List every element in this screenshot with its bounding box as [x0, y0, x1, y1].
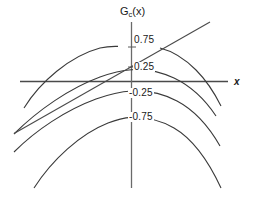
y-axis-label-main: G	[120, 5, 129, 17]
data-straight-line	[14, 22, 210, 134]
y-tick-label-0: 0.75	[133, 35, 155, 45]
data-curve-3	[14, 91, 220, 152]
data-curve-2	[14, 70, 216, 134]
y-tick-label-2: -0.25	[128, 88, 154, 98]
x-axis-label: x	[234, 77, 240, 87]
plot-canvas	[0, 0, 259, 198]
y-axis-label: Gc(x)	[120, 6, 145, 17]
y-axis-label-subscript: c	[129, 10, 133, 19]
y-axis-label-tail: (x)	[132, 5, 145, 17]
y-tick-label-1: 0.25	[133, 62, 155, 72]
data-curve-4	[34, 117, 221, 188]
data-curve-1-left	[24, 46, 118, 108]
y-tick-label-3: -0.75	[128, 112, 154, 122]
chart-figure: Gc(x) x 0.75 0.25 -0.25 -0.75	[0, 0, 259, 198]
